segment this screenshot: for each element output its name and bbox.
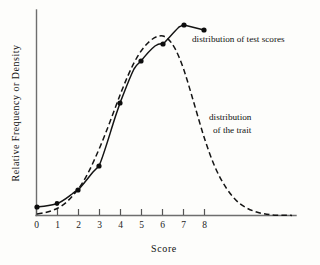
x-tick-label-2: 2 xyxy=(76,220,81,230)
x-tick-label-4: 4 xyxy=(118,220,123,230)
x-axis-title: Score xyxy=(151,243,177,254)
x-tick-label-8: 8 xyxy=(202,220,207,230)
x-axis-ticks xyxy=(37,209,205,215)
y-axis-title: Relative Frequency or Density xyxy=(10,45,21,182)
series-test-scores-markers xyxy=(34,22,206,209)
data-point-4 xyxy=(117,100,122,105)
annotation-trait-line2: of the trait xyxy=(213,125,252,135)
x-axis-tick-labels: 0 1 2 3 4 5 6 7 8 xyxy=(34,220,207,230)
data-point-0 xyxy=(34,204,39,209)
data-point-7 xyxy=(181,22,186,27)
series-trait-curve xyxy=(37,36,292,216)
annotation-trait-line1: distribution xyxy=(209,112,252,122)
data-point-1 xyxy=(55,201,60,206)
data-point-5 xyxy=(138,58,143,63)
annotation-test-scores: distribution of test scores xyxy=(192,34,285,44)
x-tick-label-1: 1 xyxy=(55,220,60,230)
x-tick-label-7: 7 xyxy=(181,220,186,230)
x-tick-label-0: 0 xyxy=(34,220,39,230)
x-tick-label-5: 5 xyxy=(139,220,144,230)
figure-container: 0 1 2 3 4 5 6 7 8 Score Relative Frequen… xyxy=(0,0,320,265)
x-tick-label-3: 3 xyxy=(97,220,102,230)
data-point-8 xyxy=(201,27,206,32)
data-point-3 xyxy=(96,163,101,168)
data-point-2 xyxy=(75,187,80,192)
x-tick-label-6: 6 xyxy=(160,220,165,230)
series-test-scores-line xyxy=(37,25,204,207)
distribution-chart: 0 1 2 3 4 5 6 7 8 Score Relative Frequen… xyxy=(0,0,320,265)
data-point-6 xyxy=(160,41,165,46)
